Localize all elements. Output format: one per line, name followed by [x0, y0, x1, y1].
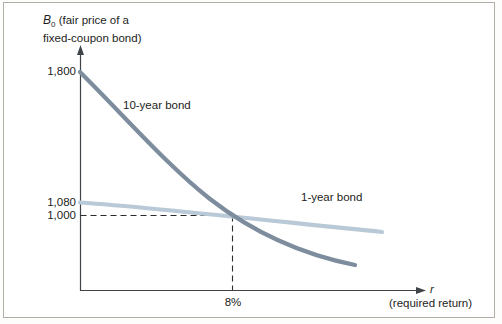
y-axis-title-line1-rest: (fair price of a [55, 14, 129, 26]
x-axis-title-symbol: r [430, 283, 434, 295]
figure-root: B0 (fair price of a fixed-coupon bond) 1… [0, 0, 502, 324]
chart-plot-area [0, 0, 502, 324]
y-axis-arrowhead [77, 45, 84, 55]
x-axis-title-sub: (required return) [389, 297, 472, 309]
y-axis-title-line2: fixed-coupon bond) [43, 32, 141, 44]
x-axis-arrowhead [416, 287, 426, 294]
y-tick-label-1080: 1,080 [26, 196, 76, 208]
series-line-1-year-bond [80, 203, 382, 233]
series-line-10-year-bond [80, 72, 355, 265]
y-tick-label-1800: 1,800 [26, 65, 76, 77]
y-axis-title: B0 (fair price of a fixed-coupon bond) [43, 14, 141, 45]
x-tick-label-8-percent: 8% [208, 296, 258, 308]
series-label-1-year-bond: 1-year bond [301, 191, 362, 203]
series-label-10-year-bond: 10-year bond [123, 99, 191, 111]
y-axis-title-symbol: B [43, 13, 51, 27]
y-tick-label-1000: 1,000 [26, 209, 76, 221]
